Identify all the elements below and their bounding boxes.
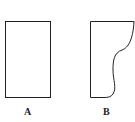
shape-b-label: B [103,106,110,117]
shape-a-rectangle [6,22,51,98]
figure-canvas [0,0,135,122]
shape-a-label: A [24,106,31,117]
shape-b-curved-outline [91,22,135,98]
